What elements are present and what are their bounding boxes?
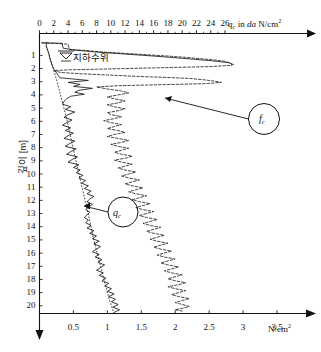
depth-axis-tick-label: 17: [18, 262, 36, 271]
depth-axis-tick-label: 2: [18, 64, 36, 73]
depth-axis-tick-label: 20: [18, 301, 36, 310]
top-axis-in: in: [235, 19, 247, 29]
bottom-axis-title: N/cm2: [268, 323, 291, 334]
bottom-axis-arrow: [306, 310, 316, 318]
top-axis-title: qc in da N/cm2: [228, 18, 281, 30]
depth-axis-tick-label: 13: [18, 209, 36, 218]
bottom-axis-tick-label: 1.5: [130, 323, 152, 332]
bottom-axis-tick-label: 0.5: [62, 323, 84, 332]
groundwater-symbol-group: [58, 51, 74, 61]
depth-axis-tick-label: 15: [18, 235, 36, 244]
series-group: [42, 42, 234, 314]
depth-axis-tick-label: 4: [18, 90, 36, 99]
fc-callout-sub: c: [262, 118, 265, 125]
top-axis-unit-sup: 2: [278, 18, 281, 24]
bottom-axis-tick-label: 1: [96, 323, 118, 332]
qc-callout-label: qc: [113, 207, 121, 219]
fc-callout-arrow: [165, 96, 172, 102]
top-axis-unit: N/cm: [256, 19, 278, 29]
bottom-axis-unit: N/cm: [268, 324, 288, 334]
depth-axis-tick-label: 14: [18, 222, 36, 231]
depth-axis-tick-label: 19: [18, 288, 36, 297]
depth-axis-tick-label: 6: [18, 117, 36, 126]
qc-callout-sub: c: [118, 212, 121, 219]
groundwater-level-label: 지하수위: [73, 50, 109, 64]
chart-canvas: [0, 0, 321, 352]
fc-callout-leader: [165, 98, 249, 119]
depth-axis-tick-label: 1: [18, 51, 36, 60]
depth-axis-tick-label: 12: [18, 196, 36, 205]
depth-axis-tick-label: 5: [18, 104, 36, 113]
depth-axis-title: 깊이 [m]: [15, 127, 29, 187]
fc-callout-label: fc: [259, 113, 265, 125]
top-axis-arrow: [307, 30, 316, 38]
top-axis-da: da: [247, 19, 256, 29]
depth-axis-tick-label: 3: [18, 77, 36, 86]
bottom-axis-tick-label: 2: [164, 323, 186, 332]
bottom-axis-tick-label: 2.5: [198, 323, 220, 332]
bottom-axis-unit-sup: 2: [288, 323, 291, 329]
groundwater-triangle-icon: [60, 53, 72, 59]
bottom-axis-tick-label: 3: [232, 323, 254, 332]
depth-axis-arrow: [36, 330, 44, 340]
depth-axis-tick-label: 16: [18, 249, 36, 258]
cpt-sounding-chart: 02468101214161820222426 0.511.522.533.5 …: [0, 0, 321, 352]
depth-axis-tick-label: 18: [18, 275, 36, 284]
